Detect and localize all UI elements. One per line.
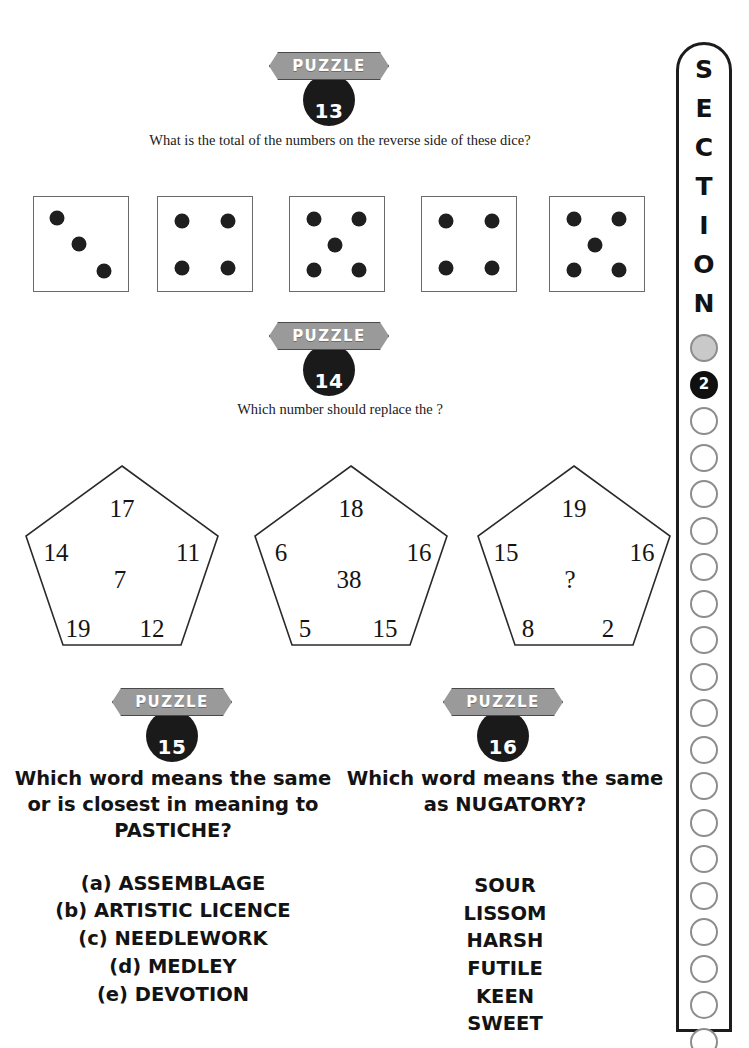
puzzle-number: 15 [158, 737, 187, 757]
word-question-line: or is closest in meaning to [8, 792, 338, 818]
pentagon-right: 16 [407, 539, 432, 567]
section-dot[interactable] [690, 809, 718, 837]
die-3 [289, 196, 385, 292]
pentagon-bottom-right: 15 [373, 615, 398, 643]
pip [328, 237, 343, 252]
word-option[interactable]: SOUR [340, 872, 670, 900]
section-dot[interactable] [690, 553, 718, 581]
pentagon-center: 38 [337, 566, 362, 594]
puzzle-number-circle: 14 [303, 344, 355, 396]
section-dot[interactable] [690, 517, 718, 545]
puzzle-badge-15: 15 PUZZLE [112, 688, 232, 754]
word-option[interactable]: KEEN [340, 983, 670, 1011]
pip [439, 261, 454, 276]
section-dot-current[interactable]: 2 [690, 371, 718, 399]
section-dot[interactable] [690, 480, 718, 508]
word-options-16: SOUR LISSOM HARSH FUTILE KEEN SWEET [340, 872, 670, 1038]
word-option[interactable]: (a) ASSEMBLAGE [8, 870, 338, 898]
pip [175, 261, 190, 276]
pentagon-left: 6 [275, 539, 288, 567]
section-dot[interactable] [690, 955, 718, 983]
word-option[interactable]: FUTILE [340, 955, 670, 983]
pip [306, 211, 321, 226]
pentagon-bottom-right: 12 [140, 615, 165, 643]
puzzle-badge-13: 13 PUZZLE [269, 52, 389, 118]
section-letter: S [695, 57, 713, 82]
section-dot[interactable] [690, 772, 718, 800]
section-dot[interactable] [690, 407, 718, 435]
pip [220, 261, 235, 276]
section-dot[interactable] [690, 736, 718, 764]
pip [588, 237, 603, 252]
section-letter: E [695, 96, 712, 121]
word-question-16: Which word means the same as NUGATORY? [340, 766, 670, 818]
die-5 [549, 196, 645, 292]
puzzle-badge-14: 14 PUZZLE [269, 322, 389, 388]
section-letter: C [695, 135, 713, 160]
puzzle-plate: PUZZLE [269, 322, 389, 350]
section-dot[interactable] [690, 699, 718, 727]
pip [611, 263, 626, 278]
pentagon-bottom-left: 5 [299, 615, 312, 643]
puzzle-page: 13 PUZZLE What is the total of the numbe… [0, 0, 749, 1048]
section-letter: N [694, 291, 715, 316]
section-dot[interactable] [690, 663, 718, 691]
word-question-line: Which word means the same [8, 766, 338, 792]
word-puzzle-15: Which word means the same or is closest … [8, 766, 338, 1008]
die-4 [421, 196, 517, 292]
word-option[interactable]: (c) NEEDLEWORK [8, 925, 338, 953]
word-question-line: as NUGATORY? [340, 792, 670, 818]
section-dot-completed[interactable] [690, 334, 718, 362]
die-1 [33, 196, 129, 292]
pip [175, 213, 190, 228]
section-dot[interactable] [690, 626, 718, 654]
puzzle-plate: PUZZLE [269, 52, 389, 80]
pentagon-2: 18 6 16 38 5 15 [251, 460, 451, 650]
word-option[interactable]: (b) ARTISTIC LICENCE [8, 897, 338, 925]
word-question-line: PASTICHE? [8, 818, 338, 844]
puzzle-badge-16: 16 PUZZLE [443, 688, 563, 754]
pip [566, 263, 581, 278]
puzzle-number-circle: 13 [303, 74, 355, 126]
section-dot[interactable] [690, 590, 718, 618]
word-puzzle-16: Which word means the same as NUGATORY? S… [340, 766, 670, 1038]
pip [484, 261, 499, 276]
section-dot[interactable] [690, 991, 718, 1019]
question-text-13: What is the total of the numbers on the … [60, 132, 620, 149]
pentagon-top: 19 [562, 495, 587, 523]
puzzle-number-circle: 15 [146, 710, 198, 762]
word-options-15: (a) ASSEMBLAGE (b) ARTISTIC LICENCE (c) … [8, 870, 338, 1008]
section-dot[interactable] [690, 1028, 718, 1048]
section-dot-label: 2 [699, 377, 709, 392]
pentagon-right: 16 [630, 539, 655, 567]
section-letter: I [699, 213, 708, 238]
pip [484, 213, 499, 228]
pentagon-left: 14 [44, 539, 69, 567]
pip [72, 237, 87, 252]
word-option[interactable]: SWEET [340, 1010, 670, 1038]
pentagon-right: 11 [176, 539, 200, 567]
puzzle-plate-label: PUZZLE [292, 57, 366, 75]
puzzle-plate-label: PUZZLE [292, 327, 366, 345]
word-option[interactable]: HARSH [340, 927, 670, 955]
pentagon-top: 18 [339, 495, 364, 523]
section-dot[interactable] [690, 918, 718, 946]
pentagon-bottom-left: 19 [66, 615, 91, 643]
puzzle-plate-label: PUZZLE [466, 693, 540, 711]
section-dot[interactable] [690, 444, 718, 472]
section-dot[interactable] [690, 882, 718, 910]
puzzle-number: 14 [315, 371, 344, 391]
question-text-14: Which number should replace the ? [130, 401, 550, 418]
pip [351, 211, 366, 226]
pentagon-bottom-right: 2 [602, 615, 615, 643]
puzzle-plate-label: PUZZLE [135, 693, 209, 711]
pip [96, 264, 111, 279]
word-option[interactable]: (d) MEDLEY [8, 953, 338, 981]
section-dot[interactable] [690, 845, 718, 873]
word-option[interactable]: LISSOM [340, 900, 670, 928]
pentagon-3: 19 15 16 ? 8 2 [474, 460, 674, 650]
section-sidebar-inner: S E C T I O N 2 [679, 45, 729, 1029]
word-option[interactable]: (e) DEVOTION [8, 981, 338, 1009]
pip [351, 263, 366, 278]
pentagon-left: 15 [494, 539, 519, 567]
